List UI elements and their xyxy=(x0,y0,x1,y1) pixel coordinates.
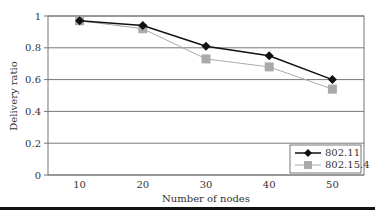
diamond-marker-icon xyxy=(265,51,274,60)
x-tick-label: 40 xyxy=(263,179,276,190)
square-marker-icon xyxy=(328,85,337,94)
square-marker-icon xyxy=(202,54,211,63)
x-tick-label: 30 xyxy=(200,179,213,190)
y-tick-label: 0.4 xyxy=(25,106,41,117)
legend: 802.11 802.15.4 xyxy=(290,145,370,173)
x-axis-label: Number of nodes xyxy=(162,193,250,204)
y-axis-ticks: 00.20.40.60.81 xyxy=(25,11,41,181)
x-tick-label: 10 xyxy=(73,179,86,190)
y-tick-label: 0.6 xyxy=(25,74,41,85)
diamond-marker-icon xyxy=(202,42,211,51)
y-tick-label: 0.8 xyxy=(25,42,41,53)
square-marker-icon xyxy=(304,161,312,169)
x-tick-label: 20 xyxy=(136,179,149,190)
legend-label-802-15-4: 802.15.4 xyxy=(325,159,370,170)
legend-label-802-11: 802.11 xyxy=(325,147,360,158)
y-axis-label: Delivery ratio xyxy=(8,61,19,131)
bottom-rule-divider xyxy=(0,207,375,210)
y-tick-label: 0 xyxy=(35,170,41,181)
y-tick-label: 0.2 xyxy=(25,138,41,149)
diamond-marker-icon xyxy=(328,75,337,84)
x-axis-ticks: 1020304050 xyxy=(73,179,339,190)
square-marker-icon xyxy=(265,62,274,71)
data-series xyxy=(75,16,337,93)
line-chart: 00.20.40.60.81 1020304050 Delivery ratio… xyxy=(0,0,375,222)
y-tick-label: 1 xyxy=(35,11,41,22)
x-tick-label: 50 xyxy=(326,179,339,190)
